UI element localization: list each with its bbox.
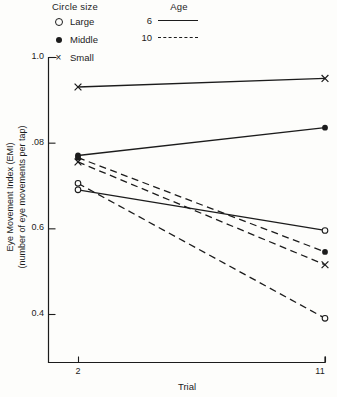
series-line <box>78 128 325 156</box>
axis-frame <box>49 58 326 363</box>
series-line <box>78 78 325 87</box>
figure: Circle size Large Middle × Small Age 6 1… <box>0 0 337 397</box>
series-line <box>78 158 325 252</box>
x-cross-marker <box>322 261 329 268</box>
series-line <box>78 190 325 231</box>
filled-circle-marker <box>322 249 328 255</box>
filled-circle-marker <box>322 125 328 131</box>
series-line <box>78 162 325 265</box>
open-circle-marker <box>75 187 81 193</box>
series-line <box>78 183 325 318</box>
open-circle-marker <box>322 228 328 234</box>
open-circle-marker <box>75 181 81 187</box>
plot-area <box>0 0 337 397</box>
open-circle-marker <box>322 315 328 321</box>
